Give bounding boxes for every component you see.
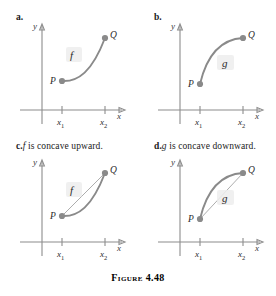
point-q-label: Q: [110, 30, 117, 40]
figure-sheet: a. f P Q y x x1 x2: [0, 0, 276, 296]
point-q-dot: [102, 170, 108, 176]
tick-label-x1: x1: [56, 249, 64, 261]
point-q-label: Q: [248, 165, 255, 175]
tick-label-x2: x2: [237, 117, 245, 129]
function-label-box: [66, 182, 82, 197]
point-p-label: P: [49, 211, 56, 221]
tick-label-x2: x2: [99, 249, 107, 261]
tick-label-x2: x2: [99, 117, 107, 129]
figure-caption-number: 4.48: [146, 272, 165, 283]
point-p-label: P: [49, 76, 56, 86]
panel-c-label: c.: [16, 141, 23, 151]
point-p-dot: [59, 213, 65, 219]
function-label-box: [66, 47, 82, 62]
point-p-label: P: [187, 214, 194, 224]
y-axis-label: y: [170, 21, 175, 31]
function-label-g: g: [222, 57, 228, 69]
point-q-dot: [240, 35, 246, 41]
panel-d-label: d.: [154, 141, 162, 151]
panel-d-caption: d.g is concave downward.: [154, 140, 256, 152]
x-axis-label: x: [254, 243, 259, 253]
panel-c-plot: f P Q y x x1 x2: [0, 154, 138, 284]
point-q-dot: [102, 35, 108, 41]
x-axis-label: x: [254, 111, 259, 121]
panel-b: b. g P Q y x x1 x2: [138, 8, 276, 138]
figure-caption: Figure 4.48: [0, 272, 276, 283]
function-label-g: g: [222, 192, 228, 204]
tick-label-x1: x1: [56, 117, 64, 129]
y-axis-label: y: [170, 157, 175, 167]
tick-label-x2: x2: [237, 249, 245, 261]
panel-d-caption-text: is concave downward.: [167, 141, 256, 151]
tick-label-x1: x1: [194, 249, 202, 261]
x-axis-label: x: [116, 243, 121, 253]
panel-d-plot: g P Q y x x1 x2: [138, 154, 276, 284]
panel-b-plot: g P Q y x x1 x2: [138, 12, 276, 142]
x-axis-label: x: [116, 111, 121, 121]
panel-c: c.f is concave upward. f P Q y x x1: [0, 140, 138, 270]
panel-c-caption-text: is concave upward.: [26, 141, 103, 151]
point-p-dot: [59, 78, 65, 84]
point-p-dot: [197, 216, 203, 222]
point-q-label: Q: [248, 30, 255, 40]
panel-d: d.g is concave downward. g P Q y x x: [138, 140, 276, 270]
panel-a-plot: f P Q y x x1 x2: [0, 12, 138, 142]
tick-label-x1: x1: [194, 117, 202, 129]
point-q-label: Q: [110, 165, 117, 175]
figure-caption-prefix: Figure: [111, 272, 142, 283]
point-p-dot: [197, 81, 203, 87]
panel-c-caption: c.f is concave upward.: [16, 140, 103, 152]
y-axis-label: y: [32, 157, 37, 167]
point-q-dot: [240, 170, 246, 176]
y-axis-label: y: [32, 21, 37, 31]
panel-a: a. f P Q y x x1 x2: [0, 8, 138, 138]
point-p-label: P: [187, 79, 194, 89]
